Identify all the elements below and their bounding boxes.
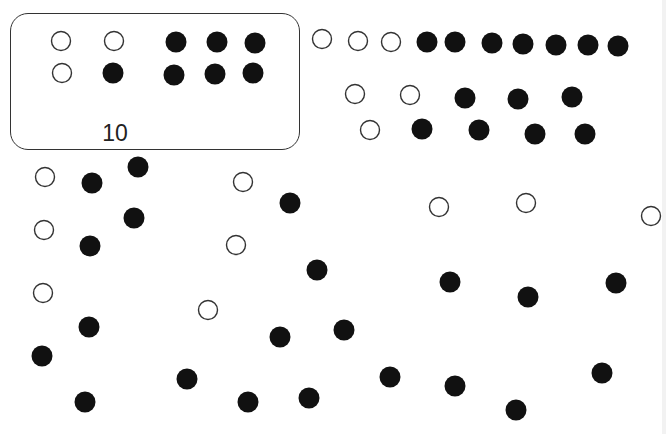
open-circle-icon (346, 85, 365, 104)
filled-circle-icon (75, 392, 96, 413)
filled-circle-icon (525, 124, 546, 145)
open-circle-icon (234, 173, 253, 192)
open-circle-icon (361, 121, 380, 140)
filled-circle-icon (207, 32, 228, 53)
filled-circle-icon (578, 35, 599, 56)
filled-circle-icon (575, 124, 596, 145)
filled-circle-icon (79, 317, 100, 338)
filled-circle-icon (164, 65, 185, 86)
counting-diagram: 10 (0, 0, 666, 434)
circles-layer (0, 0, 666, 434)
filled-circle-icon (412, 119, 433, 140)
filled-circle-icon (280, 193, 301, 214)
scattered-circles (32, 157, 661, 421)
filled-circle-icon (546, 35, 567, 56)
filled-circle-icon (440, 272, 461, 293)
filled-circle-icon (103, 63, 124, 84)
filled-circle-icon (205, 64, 226, 85)
filled-circle-icon (513, 34, 534, 55)
open-circle-icon (642, 207, 661, 226)
filled-circle-icon (128, 157, 149, 178)
filled-circle-icon (508, 89, 529, 110)
open-circle-icon (313, 30, 332, 49)
open-circle-icon (401, 86, 420, 105)
row-circles (313, 30, 629, 145)
open-circle-icon (105, 32, 124, 51)
filled-circle-icon (124, 208, 145, 229)
filled-circle-icon (606, 273, 627, 294)
filled-circle-icon (299, 388, 320, 409)
open-circle-icon (517, 194, 536, 213)
filled-circle-icon (243, 63, 264, 84)
filled-circle-icon (482, 33, 503, 54)
filled-circle-icon (80, 236, 101, 257)
filled-circle-icon (380, 367, 401, 388)
open-circle-icon (430, 198, 449, 217)
filled-circle-icon (518, 287, 539, 308)
filled-circle-icon (417, 32, 438, 53)
open-circle-icon (34, 284, 53, 303)
filled-circle-icon (562, 87, 583, 108)
open-circle-icon (52, 32, 71, 51)
open-circle-icon (199, 301, 218, 320)
filled-circle-icon (238, 392, 259, 413)
filled-circle-icon (445, 32, 466, 53)
filled-circle-icon (166, 32, 187, 53)
filled-circle-icon (245, 33, 266, 54)
filled-circle-icon (270, 327, 291, 348)
filled-circle-icon (32, 346, 53, 367)
box-circles (52, 32, 266, 86)
open-circle-icon (349, 32, 368, 51)
filled-circle-icon (177, 369, 198, 390)
filled-circle-icon (469, 120, 490, 141)
filled-circle-icon (445, 376, 466, 397)
filled-circle-icon (334, 320, 355, 341)
open-circle-icon (382, 33, 401, 52)
open-circle-icon (36, 168, 55, 187)
filled-circle-icon (307, 260, 328, 281)
filled-circle-icon (506, 400, 527, 421)
filled-circle-icon (592, 363, 613, 384)
filled-circle-icon (608, 36, 629, 57)
filled-circle-icon (82, 173, 103, 194)
open-circle-icon (35, 221, 54, 240)
filled-circle-icon (455, 88, 476, 109)
open-circle-icon (53, 64, 72, 83)
page-edge (662, 0, 666, 434)
open-circle-icon (227, 236, 246, 255)
